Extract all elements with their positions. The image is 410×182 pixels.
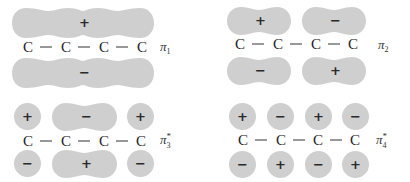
bond: [330, 140, 342, 141]
top-lobe-c3-pi4: +: [305, 103, 332, 130]
atom-c4: C: [350, 133, 360, 148]
top-lobe-c4-pi4: −: [342, 103, 369, 130]
orbital-pi4-star: + − + − C C C C π4* − + − +: [0, 0, 410, 182]
sign-plus: +: [350, 158, 361, 171]
sign-minus: −: [275, 110, 286, 123]
top-lobe-c2-pi4: −: [267, 103, 294, 130]
orbital-label-pi4-star: π4*: [376, 132, 387, 150]
bond: [293, 140, 305, 141]
sign-minus: −: [313, 158, 324, 171]
sign-minus: −: [350, 110, 361, 123]
sign-minus: −: [237, 158, 248, 171]
bottom-lobe-c1-pi4: −: [229, 151, 256, 178]
bottom-lobe-c4-pi4: +: [342, 151, 369, 178]
atom-c2: C: [276, 133, 286, 148]
sign-plus: +: [275, 158, 286, 171]
atom-c1: C: [238, 133, 248, 148]
bottom-lobe-c2-pi4: +: [267, 151, 294, 178]
atom-c3: C: [313, 133, 323, 148]
sign-plus: +: [237, 110, 248, 123]
top-lobe-c1-pi4: +: [229, 103, 256, 130]
bond: [255, 140, 267, 141]
bottom-lobe-c3-pi4: −: [305, 151, 332, 178]
sign-plus: +: [313, 110, 324, 123]
